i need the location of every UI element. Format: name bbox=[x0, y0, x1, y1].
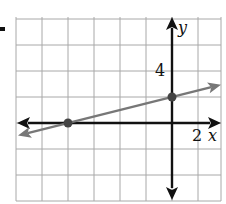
coordinate-plane: y x 2 4 bbox=[0, 0, 226, 204]
data-point bbox=[64, 119, 73, 128]
y-tick-label: 4 bbox=[155, 61, 165, 80]
y-axis-label: y bbox=[177, 18, 188, 37]
x-axis-label: x bbox=[208, 126, 217, 145]
data-point bbox=[168, 93, 177, 102]
grid-lines bbox=[16, 17, 221, 201]
y-axis bbox=[166, 17, 178, 200]
x-tick-label: 2 bbox=[192, 126, 202, 145]
